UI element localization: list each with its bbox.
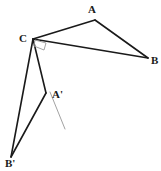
segment-CBprime bbox=[11, 39, 33, 157]
segment-CAprime bbox=[33, 39, 46, 93]
vertex-label-a-prime: A' bbox=[52, 89, 63, 100]
segment-CB bbox=[33, 39, 148, 58]
segment-CA bbox=[33, 20, 95, 39]
geometry-canvas bbox=[0, 0, 161, 171]
vertex-label-b: B bbox=[151, 55, 158, 66]
vertex-label-a: A bbox=[88, 4, 96, 15]
triangle-a-prime-b-prime-c-group bbox=[11, 39, 46, 157]
vertex-label-c: C bbox=[19, 33, 27, 44]
segment-AB bbox=[95, 20, 148, 58]
triangle-abc-group bbox=[33, 20, 148, 58]
vertex-label-b-prime: B' bbox=[5, 158, 15, 169]
geometry-figure: A B C A' B' bbox=[0, 0, 161, 171]
